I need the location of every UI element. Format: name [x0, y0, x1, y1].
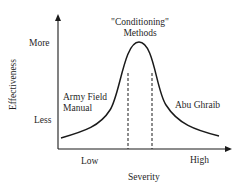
- peak-annotation-line1: "Conditioning": [100, 17, 180, 28]
- left-annotation-line1: Army Field: [63, 92, 107, 103]
- y-tick-more: More: [29, 38, 50, 49]
- y-axis-arrow-icon: [55, 14, 61, 21]
- effectiveness-curve: [61, 42, 219, 138]
- x-axis-arrow-icon: [225, 146, 232, 152]
- x-axis-title: Severity: [128, 172, 160, 183]
- y-axis-title: Effectiveness: [8, 59, 18, 110]
- y-tick-less: Less: [34, 115, 51, 126]
- peak-annotation-line2: Methods: [100, 28, 180, 39]
- x-tick-high: High: [190, 155, 209, 166]
- left-annotation-line2: Manual: [63, 103, 107, 114]
- peak-annotation: "Conditioning" Methods: [100, 17, 180, 39]
- effectiveness-severity-diagram: "Conditioning" Methods Army Field Manual…: [0, 0, 245, 193]
- left-annotation: Army Field Manual: [63, 92, 107, 114]
- right-annotation: Abu Ghraib: [175, 100, 220, 111]
- x-tick-low: Low: [81, 156, 98, 167]
